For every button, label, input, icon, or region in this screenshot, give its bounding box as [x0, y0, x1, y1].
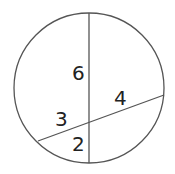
- chord-diagram: 6 4 3 2: [0, 0, 175, 174]
- label-right-chord-segment: 4: [114, 86, 127, 110]
- label-upper-vertical-segment: 6: [72, 61, 85, 85]
- label-left-chord-segment: 3: [55, 107, 68, 131]
- label-lower-vertical-segment: 2: [72, 132, 85, 156]
